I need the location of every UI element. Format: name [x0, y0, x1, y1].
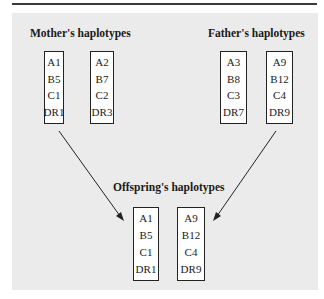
arrow-father-to-offspring	[213, 131, 276, 221]
arrow-mother-to-offspring	[59, 131, 124, 221]
inheritance-arrows	[0, 0, 324, 299]
